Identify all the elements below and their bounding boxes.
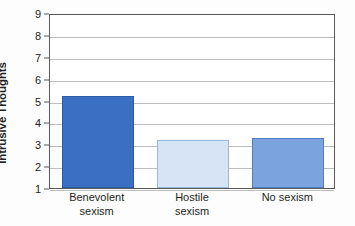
bar-no-sexism: [252, 138, 324, 188]
bar-hostile-sexism: [157, 140, 229, 188]
x-tick-label: Hostilesexism: [144, 191, 239, 218]
bar-chart: Intrusive Thoughts 123456789 Benevolents…: [0, 0, 355, 226]
y-tick-label: 1: [35, 184, 41, 195]
bars-group: [50, 15, 334, 188]
bar-benevolent-sexism: [62, 96, 134, 188]
x-tick-label-line1: Benevolent: [69, 191, 124, 203]
y-tick-label: 7: [35, 52, 41, 63]
x-tick-label-line2: sexism: [49, 205, 144, 219]
y-tick-label: 6: [35, 74, 41, 85]
x-tick-label-line1: Hostile: [175, 191, 209, 203]
y-tick-label: 4: [35, 118, 41, 129]
plot-area: [49, 14, 335, 189]
x-axis-tick-labels: BenevolentsexismHostilesexismNo sexism: [49, 191, 335, 226]
y-axis-tick-labels: 123456789: [26, 14, 44, 189]
y-tick-label: 2: [35, 162, 41, 173]
y-tick-label: 5: [35, 96, 41, 107]
y-tick-label: 3: [35, 140, 41, 151]
x-tick-label: No sexism: [240, 191, 335, 205]
y-axis-title: Intrusive Thoughts: [0, 0, 26, 226]
x-tick-label: Benevolentsexism: [49, 191, 144, 218]
x-tick-label-line1: No sexism: [262, 191, 313, 203]
y-tick-label: 8: [35, 30, 41, 41]
y-tick-label: 9: [35, 9, 41, 20]
x-tick-label-line2: sexism: [144, 205, 239, 219]
